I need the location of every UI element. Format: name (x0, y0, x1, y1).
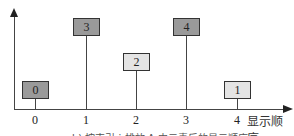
value-box-1: 3 (73, 18, 100, 36)
stem-1 (86, 36, 87, 109)
value-box-4: 1 (224, 81, 251, 99)
value-label: 2 (134, 55, 140, 70)
stem-0 (35, 99, 36, 109)
y-axis (14, 14, 15, 110)
tick-label-4: 4 (229, 113, 245, 128)
stem-3 (186, 36, 187, 109)
value-box-3: 4 (173, 18, 200, 36)
stem-2 (136, 71, 137, 109)
stem-4 (237, 99, 238, 109)
x-axis-label: 显示顺序 (247, 112, 294, 136)
value-label: 1 (235, 83, 241, 98)
figure-caption: b) 按索引 i 排放 A 中元素后的显示顺序 (72, 130, 248, 136)
value-label: 4 (184, 20, 190, 35)
value-box-0: 0 (22, 81, 49, 99)
x-axis (14, 109, 286, 110)
tick-label-3: 3 (178, 113, 194, 128)
tick-label-0: 0 (27, 113, 43, 128)
tick-label-1: 1 (78, 113, 94, 128)
value-label: 3 (84, 20, 90, 35)
value-box-2: 2 (123, 53, 150, 71)
tick-label-2: 2 (128, 113, 144, 128)
value-label: 0 (33, 83, 39, 98)
y-axis-arrow-icon (10, 8, 18, 17)
